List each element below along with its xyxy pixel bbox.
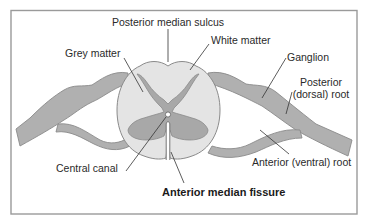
label-posterior-root: Posterior (dorsal) root [292, 76, 350, 100]
label-posterior-root-line1: Posterior [292, 76, 350, 88]
spinal-cord-diagram: Posterior median sulcus White matter Gre… [0, 0, 368, 223]
anterior-median-fissure [166, 122, 170, 160]
label-central-canal: Central canal [56, 162, 118, 174]
label-grey-matter: Grey matter [65, 47, 120, 59]
central-canal [165, 112, 170, 117]
label-anterior-median-fissure: Anterior median fissure [162, 186, 285, 198]
label-posterior-root-line2: (dorsal) root [292, 88, 350, 100]
label-white-matter: White matter [211, 34, 271, 46]
label-anterior-root: Anterior (ventral) root [252, 156, 351, 168]
label-ganglion: Ganglion [287, 51, 329, 63]
label-posterior-median-sulcus: Posterior median sulcus [112, 16, 224, 28]
